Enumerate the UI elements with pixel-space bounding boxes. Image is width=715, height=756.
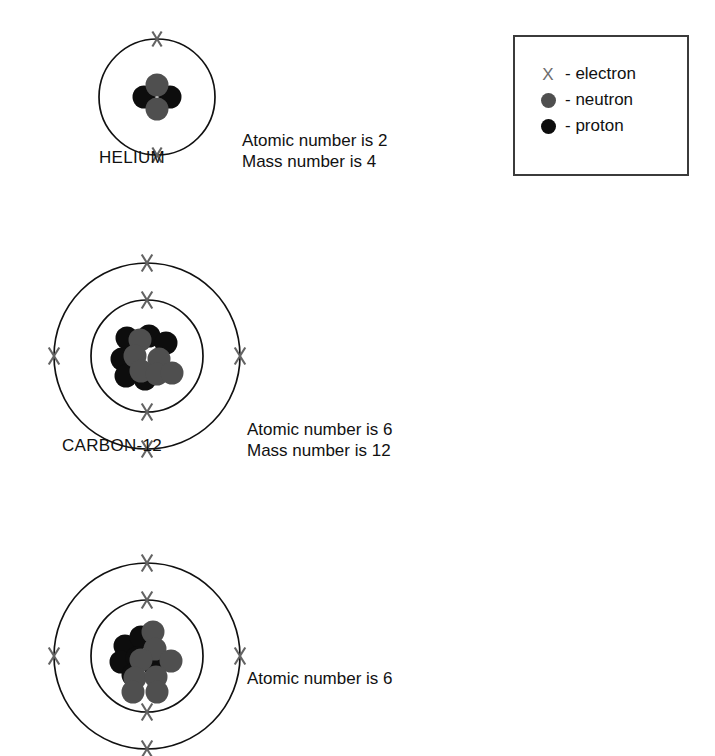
atom-facts-carbon-12: Atomic number is 6 Mass number is 12 [247, 419, 393, 461]
electron-shell-2 [54, 263, 240, 449]
legend-row-electron: X - electron [537, 61, 636, 87]
nucleus-neutron [122, 681, 145, 704]
atom-diagram-carbon-14 [47, 556, 247, 756]
legend-electron-symbol: X [542, 66, 553, 83]
nucleus-neutron [161, 362, 184, 385]
helium-mass-number: Mass number is 4 [242, 151, 388, 172]
atom-diagram-helium [96, 36, 218, 158]
electron-shell-1 [91, 300, 203, 412]
electron-x-icon: X [537, 66, 559, 83]
atom-facts-helium: Atomic number is 2 Mass number is 4 [242, 130, 388, 172]
carbon-12-svg [47, 256, 247, 456]
legend-neutron-label: - neutron [564, 90, 633, 110]
carbon-12-mass-number: Mass number is 12 [247, 440, 393, 461]
helium-svg [96, 36, 218, 158]
carbon-12-atomic-number: Atomic number is 6 [247, 419, 393, 440]
nucleus-neutron [146, 74, 169, 97]
electron-shell-1 [99, 39, 215, 155]
legend-proton-label: - proton [564, 116, 624, 136]
legend-row-neutron: - neutron [537, 87, 636, 113]
proton-swatch [541, 119, 556, 134]
helium-atomic-number: Atomic number is 2 [242, 130, 388, 151]
proton-dot-icon [537, 119, 559, 134]
atom-diagram-carbon-12 [47, 256, 247, 456]
atom-label-helium: HELIUM [99, 148, 165, 168]
carbon-14-svg [47, 556, 247, 756]
legend-row-proton: - proton [537, 113, 636, 139]
legend-electron-label: - electron [564, 64, 636, 84]
legend-box: X - electron - neutron - proton [513, 35, 689, 176]
neutron-swatch [541, 93, 556, 108]
legend-neutron-text: neutron [575, 90, 633, 109]
neutron-dot-icon [537, 93, 559, 108]
legend-proton-text: proton [575, 116, 623, 135]
atom-label-carbon-12: CARBON-12 [62, 436, 162, 456]
nucleus-neutron [146, 681, 169, 704]
legend-electron-text: electron [575, 64, 635, 83]
carbon-14-atomic-number: Atomic number is 6 [247, 668, 393, 689]
legend-items: X - electron - neutron - proton [537, 61, 636, 139]
nucleus-neutron [146, 98, 169, 121]
atom-facts-carbon-14: Atomic number is 6 [247, 668, 393, 689]
